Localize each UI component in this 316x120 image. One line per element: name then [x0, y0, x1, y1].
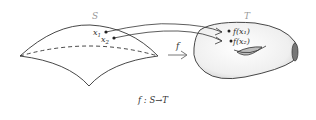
point-x2-label-sub: 2	[105, 39, 110, 45]
point-fx1	[228, 30, 231, 33]
source-surface-left-edge	[20, 56, 89, 86]
caption: f : S→T	[137, 95, 169, 105]
target-surface-end-opening	[292, 43, 298, 61]
point-x1-label: x1	[93, 28, 101, 38]
function-diagram: S T x1 x2 f(x₁) f(x₂) f f : S→T	[0, 0, 316, 120]
map-label: f	[175, 41, 181, 51]
map-arrow	[168, 51, 187, 59]
point-x2	[112, 36, 115, 39]
source-surface-back-edge	[20, 46, 158, 56]
point-x1	[104, 30, 107, 33]
source-set-label: S	[92, 11, 98, 21]
point-fx1-label: f(x₁)	[232, 27, 250, 36]
point-x2-label: x2	[101, 35, 110, 45]
point-fx2-label: f(x₂)	[232, 37, 250, 46]
source-surface-right-edge	[89, 56, 158, 86]
source-surface	[20, 25, 158, 86]
target-set-label: T	[244, 11, 251, 21]
